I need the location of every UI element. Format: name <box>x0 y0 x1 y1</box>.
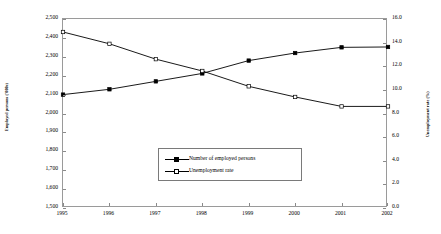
y-axis-right-tick: 6.0 <box>392 133 422 139</box>
x-axis-tick-label: 2001 <box>335 211 346 217</box>
y-axis-left-tick: 1,500 <box>28 204 58 210</box>
y-axis-right-tick-mark <box>383 19 386 20</box>
y-axis-left-tick: 2,500 <box>28 15 58 21</box>
y-axis-left-ticks: 1,5001,6001,7001,8001,9002,0002,1002,200… <box>28 0 58 234</box>
legend-item-unemployment: Unemployment rate <box>165 165 301 177</box>
y-axis-right-tick: 8.0 <box>392 110 422 116</box>
filled-square-icon <box>165 154 189 164</box>
legend-label-employed: Number of employed persons <box>189 156 255 162</box>
y-axis-left-tick-mark <box>63 76 66 77</box>
y-axis-left-tick: 2,200 <box>28 72 58 78</box>
data-point-marker <box>108 42 111 45</box>
y-axis-left-title: Employed persons ('000s) <box>5 71 9 143</box>
x-axis-tick-mark <box>156 203 157 206</box>
data-point-marker <box>340 46 343 49</box>
line-chart: Employed persons ('000s) Unemployment ra… <box>0 0 441 234</box>
y-axis-right-tick-mark <box>383 184 386 185</box>
y-axis-left-tick-mark <box>63 151 66 152</box>
data-point-marker <box>386 105 389 108</box>
y-axis-left-tick: 2,400 <box>28 34 58 40</box>
data-point-marker <box>386 45 389 48</box>
y-axis-right-title: Unemployment rate (%) <box>426 78 430 150</box>
data-point-marker <box>293 95 296 98</box>
y-axis-left-tick-mark <box>63 95 66 96</box>
y-axis-left-tick: 1,700 <box>28 166 58 172</box>
data-point-marker <box>340 105 343 108</box>
data-point-marker <box>247 85 250 88</box>
y-axis-left-tick: 2,100 <box>28 91 58 97</box>
x-axis-tick-label: 1998 <box>196 211 207 217</box>
y-axis-right-tick: 14.0 <box>392 39 422 45</box>
data-point-marker <box>61 30 64 33</box>
y-axis-right-tick-mark <box>383 66 386 67</box>
y-axis-right-tick-mark <box>383 161 386 162</box>
x-axis-tick-label: 1999 <box>242 211 253 217</box>
y-axis-left-tick: 1,600 <box>28 185 58 191</box>
y-axis-left-tick-mark <box>63 38 66 39</box>
y-axis-right-tick-mark <box>383 114 386 115</box>
y-axis-right-tick-mark <box>383 137 386 138</box>
y-axis-left-tick-mark <box>63 132 66 133</box>
y-axis-left-tick-mark <box>63 208 66 209</box>
y-axis-right-tick: 12.0 <box>392 62 422 68</box>
x-axis-tick-mark <box>295 203 296 206</box>
data-point-marker <box>108 88 111 91</box>
series-line <box>63 32 388 106</box>
y-axis-right-tick: 10.0 <box>392 86 422 92</box>
y-axis-left-tick-mark <box>63 189 66 190</box>
y-axis-left-tick: 2,000 <box>28 110 58 116</box>
y-axis-left-tick: 2,300 <box>28 53 58 59</box>
x-axis-tick-mark <box>109 203 110 206</box>
y-axis-right-tick: 16.0 <box>392 15 422 21</box>
x-axis-tick-label: 2002 <box>381 211 392 217</box>
legend-label-unemployment: Unemployment rate <box>189 168 234 174</box>
legend-item-employed: Number of employed persons <box>165 153 301 165</box>
y-axis-left-tick: 1,800 <box>28 147 58 153</box>
x-axis-tick-mark <box>342 203 343 206</box>
x-axis-tick-label: 1995 <box>56 211 67 217</box>
y-axis-right-tick-mark <box>383 43 386 44</box>
x-axis-tick-mark <box>249 203 250 206</box>
series-line <box>63 47 388 95</box>
x-axis-tick-mark <box>202 203 203 206</box>
data-point-marker <box>201 69 204 72</box>
y-axis-left-tick-mark <box>63 57 66 58</box>
chart-legend: Number of employed persons Unemployment … <box>158 148 302 181</box>
x-axis-tick-mark <box>387 203 388 206</box>
y-axis-right-tick: 4.0 <box>392 157 422 163</box>
hollow-square-icon <box>165 166 189 176</box>
y-axis-right-tick: 0.0 <box>392 204 422 210</box>
data-point-marker <box>293 51 296 54</box>
x-axis-tick-label: 1996 <box>103 211 114 217</box>
data-point-marker <box>154 57 157 60</box>
y-axis-left-tick-mark <box>63 114 66 115</box>
y-axis-right-tick: 2.0 <box>392 180 422 186</box>
y-axis-right-tick-mark <box>383 208 386 209</box>
x-axis-labels: 19951996199719981999200020012002 <box>62 211 387 225</box>
data-point-marker <box>247 59 250 62</box>
x-axis-tick-label: 1997 <box>149 211 160 217</box>
x-axis-tick-mark <box>63 203 64 206</box>
data-point-marker <box>154 80 157 83</box>
x-axis-tick-label: 2000 <box>289 211 300 217</box>
y-axis-left-tick-mark <box>63 19 66 20</box>
y-axis-right-ticks: 0.02.04.06.08.010.012.014.016.0 <box>392 0 422 234</box>
y-axis-left-tick-mark <box>63 170 66 171</box>
y-axis-right-tick-mark <box>383 90 386 91</box>
y-axis-left-tick: 1,900 <box>28 128 58 134</box>
